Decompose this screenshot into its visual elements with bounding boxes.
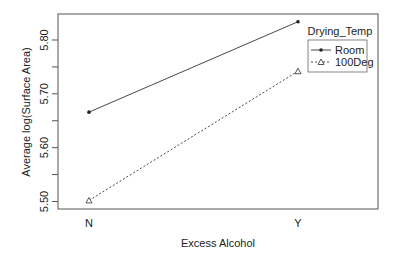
- y-tick-label: 5.50: [38, 191, 50, 212]
- dot-marker: [87, 110, 91, 114]
- legend-label: Room: [335, 44, 364, 56]
- legend-label: 100Deg: [335, 56, 374, 68]
- x-tick-label: N: [85, 217, 93, 229]
- x-axis-label: Excess Alcohol: [181, 237, 255, 249]
- legend-title: Drying_Temp: [308, 25, 373, 37]
- triangle-marker: [86, 197, 92, 203]
- x-tick-label: Y: [294, 217, 302, 229]
- x-axis: NY: [85, 217, 302, 229]
- legend: Room100Deg: [308, 40, 374, 72]
- y-tick-label: 5.80: [38, 29, 50, 50]
- series-lines: [86, 20, 301, 203]
- y-axis: 5.505.605.705.80: [38, 29, 58, 212]
- dot-marker: [296, 20, 300, 24]
- y-tick-label: 5.70: [38, 83, 50, 104]
- series-line-100deg: [89, 71, 298, 200]
- interaction-plot: 5.505.605.705.80 NY Excess Alcohol Avera…: [0, 0, 397, 264]
- series-line-room: [89, 22, 298, 112]
- triangle-marker: [295, 68, 301, 74]
- dot-marker: [319, 48, 323, 52]
- y-tick-label: 5.60: [38, 137, 50, 158]
- y-axis-label: Average log(Surface Area): [20, 47, 32, 176]
